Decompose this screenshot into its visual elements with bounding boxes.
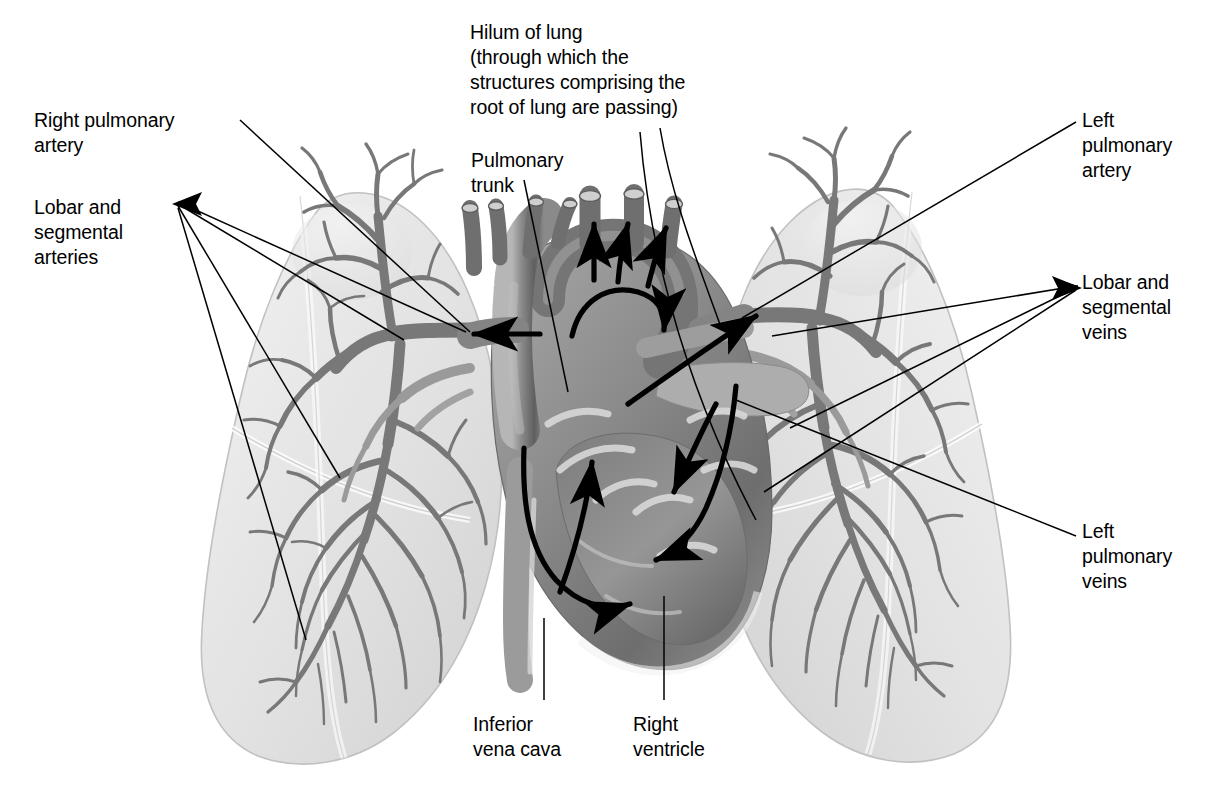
label-pulmonary-trunk: Pulmonary trunk (471, 148, 621, 198)
figure-canvas: Hilum of lung (through which the structu… (0, 0, 1213, 800)
label-left-pulmonary-artery: Left pulmonary artery (1082, 108, 1212, 183)
label-lobar-and-segmental-veins: Lobar and segmental veins (1082, 270, 1212, 345)
label-left-pulmonary-veins: Left pulmonary veins (1082, 519, 1212, 594)
label-inferior-vena-cava: Inferior vena cava (473, 712, 623, 762)
label-right-ventricle: Right ventricle (633, 712, 783, 762)
label-right-pulmonary-artery: Right pulmonary artery (34, 108, 249, 158)
label-lobar-and-segmental-arteries: Lobar and segmental arteries (34, 195, 194, 270)
label-hilum-of-lung: Hilum of lung (through which the structu… (470, 20, 740, 120)
